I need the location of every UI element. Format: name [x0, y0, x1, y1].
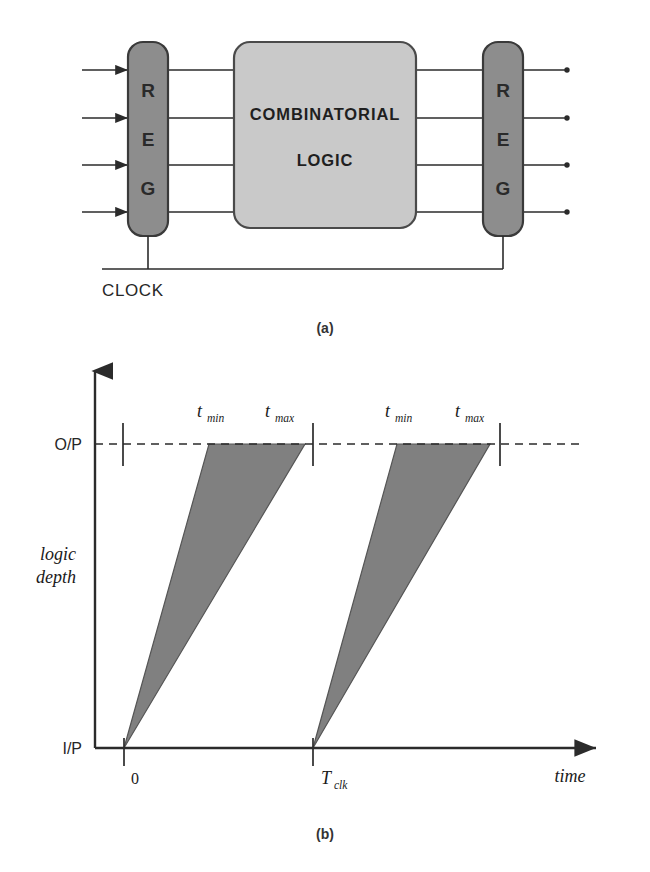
- annotation-tmin-cycle1: t min: [197, 401, 225, 424]
- clock-label: CLOCK: [102, 281, 164, 300]
- register-right-letter-e: E: [497, 129, 510, 150]
- annotation-tmax-cycle1-base: t: [265, 401, 271, 421]
- annotation-tmin-cycle2-base: t: [385, 401, 391, 421]
- clock-net: [102, 236, 503, 269]
- figure-b-svg: O/P I/P logic depth 0 T clk time t min t…: [0, 355, 650, 872]
- annotation-tmin-cycle2-sub: min: [395, 412, 413, 424]
- logic-to-reg2-wires: [416, 70, 483, 212]
- figure-a-panel: R E G COMBINATORIAL LOGIC R E G: [0, 0, 650, 355]
- input-signal-lines: [82, 70, 128, 212]
- x-axis-tick-label-tclk-sub: clk: [334, 779, 348, 791]
- propagation-cones: [124, 444, 490, 748]
- combinatorial-logic-block[interactable]: COMBINATORIAL LOGIC: [234, 42, 416, 228]
- annotation-tmin-cycle1-sub: min: [207, 412, 225, 424]
- register-right-letter-r: R: [496, 80, 510, 101]
- propagation-cone-cycle-1: [124, 444, 305, 748]
- propagation-cone-cycle-2: [313, 444, 490, 748]
- figure-b-panel: O/P I/P logic depth 0 T clk time t min t…: [0, 355, 650, 872]
- annotation-tmax-cycle2-sub: max: [465, 412, 485, 424]
- figure-b-caption: (b): [0, 826, 650, 842]
- y-axis-tick-label-output: O/P: [54, 436, 82, 453]
- logic-block-label-line2: LOGIC: [297, 151, 354, 169]
- logic-block-label-line1: COMBINATORIAL: [250, 105, 400, 123]
- annotation-tmax-cycle2: t max: [455, 401, 485, 424]
- register-right-letter-g: G: [496, 178, 511, 199]
- output-signal-lines: [523, 67, 570, 214]
- register-left-letter-r: R: [141, 80, 155, 101]
- figure-a-caption: (a): [0, 320, 650, 336]
- register-block-right[interactable]: R E G: [483, 42, 523, 236]
- x-axis-tick-label-tclk-base: T: [321, 768, 333, 788]
- x-axis-tick-label-zero: 0: [131, 770, 139, 787]
- annotation-tmax-cycle2-base: t: [455, 401, 461, 421]
- annotation-tmin-cycle1-base: t: [197, 401, 203, 421]
- annotation-tmin-cycle2: t min: [385, 401, 413, 424]
- logic-block-body: [234, 42, 416, 228]
- register-block-left[interactable]: R E G: [128, 42, 168, 236]
- register-left-letter-e: E: [142, 129, 155, 150]
- x-axis-ticks: [124, 738, 313, 766]
- y-axis-title-line1: logic: [40, 544, 76, 564]
- x-axis-tick-label-tclk: T clk: [321, 768, 348, 791]
- reg1-to-logic-wires: [168, 70, 234, 212]
- annotation-tmax-cycle1-sub: max: [275, 412, 295, 424]
- y-axis-tick-label-input: I/P: [62, 740, 82, 757]
- figure-page: R E G COMBINATORIAL LOGIC R E G: [0, 0, 650, 872]
- annotation-tmax-cycle1: t max: [265, 401, 295, 424]
- x-axis-title: time: [555, 766, 586, 786]
- y-axis-title-line2: depth: [36, 567, 76, 587]
- register-left-letter-g: G: [141, 178, 156, 199]
- figure-a-svg: R E G COMBINATORIAL LOGIC R E G: [0, 0, 650, 355]
